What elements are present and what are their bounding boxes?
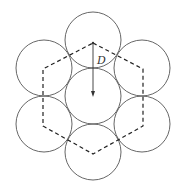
circle-bottom	[65, 124, 121, 180]
circle-upper-left	[16, 40, 72, 96]
diameter-label: D	[96, 54, 106, 67]
circle-lower-right	[114, 96, 170, 152]
hexagonal-packing-diagram: D	[0, 0, 182, 195]
arrow-start-dot	[92, 42, 94, 44]
diameter-arrow-head	[91, 91, 95, 97]
circle-upper-right	[114, 40, 170, 96]
circle-lower-left	[16, 96, 72, 152]
